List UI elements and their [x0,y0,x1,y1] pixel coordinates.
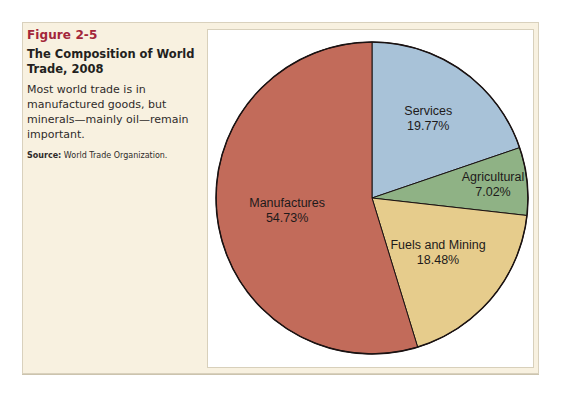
pie-chart: Services19.77%Agricultural7.02%Fuels and… [0,0,563,400]
slice-label-services: Services19.77% [404,104,452,133]
